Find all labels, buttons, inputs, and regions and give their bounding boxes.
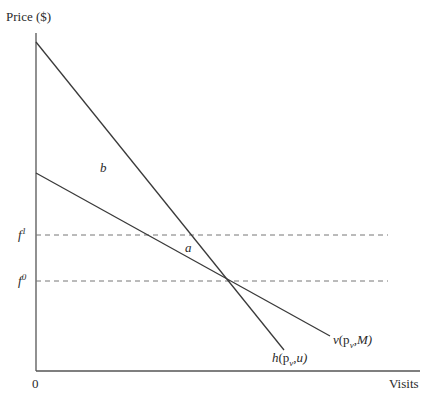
x-axis-label: Visits xyxy=(389,376,419,392)
f1-label: f1 xyxy=(18,226,26,243)
hicksian-demand-line xyxy=(36,42,284,350)
f0-label: f0 xyxy=(18,272,26,289)
origin-label: 0 xyxy=(32,376,39,392)
marshallian-curve-label: v(pv,M) xyxy=(333,332,372,350)
v-args-post: ,M) xyxy=(354,332,372,347)
region-b-label: b xyxy=(100,160,107,176)
h-args-post: ,u) xyxy=(293,350,307,365)
f0-label-superscript: 0 xyxy=(22,272,27,282)
f1-label-superscript: 1 xyxy=(22,226,27,236)
marshallian-demand-line xyxy=(36,173,330,336)
h-args-pre: (p xyxy=(279,350,290,365)
hicksian-curve-label: h(pv,u) xyxy=(272,350,307,368)
y-axis-label: Price ($) xyxy=(6,9,51,25)
region-a-label: a xyxy=(185,240,192,256)
v-args-pre: (p xyxy=(339,332,350,347)
